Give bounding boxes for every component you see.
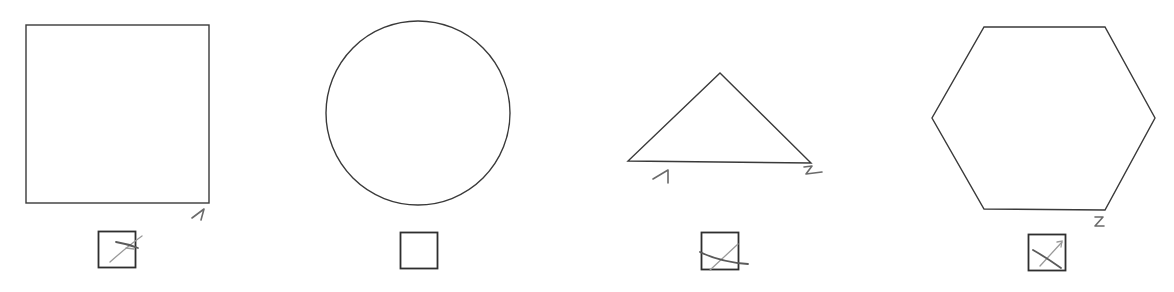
figure-triangle (628, 73, 822, 270)
checkbox-frame[interactable] (702, 233, 739, 270)
annotation-1-icon (653, 170, 668, 183)
checkbox-square[interactable] (99, 232, 143, 268)
square-shape (26, 25, 209, 203)
checkbox-frame[interactable] (1029, 235, 1066, 271)
checkbox-frame[interactable] (99, 232, 136, 268)
checkbox-circle[interactable] (401, 233, 438, 269)
checkbox-triangle[interactable] (700, 233, 748, 271)
checkbox-frame[interactable] (401, 233, 438, 269)
checkbox-hexagon[interactable] (1029, 235, 1066, 271)
annotation-2-icon (804, 166, 822, 174)
figure-square (26, 25, 209, 268)
shapes-canvas (0, 0, 1174, 292)
triangle-shape (628, 73, 811, 163)
figure-circle (326, 21, 510, 269)
annotation-1-icon (192, 209, 204, 220)
figure-hexagon (932, 27, 1155, 271)
annotation-2-icon (1095, 217, 1104, 226)
circle-shape (326, 21, 510, 205)
hexagon-shape (932, 27, 1155, 210)
